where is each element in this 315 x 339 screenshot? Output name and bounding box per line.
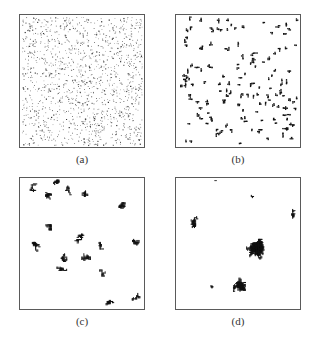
panel-d-large-fractal-cluster [175, 177, 301, 310]
panel-d-plot [176, 178, 300, 309]
panel-b-label: (b) [218, 153, 258, 165]
panel-a-label: (a) [62, 153, 102, 165]
panel-b-small-clusters [175, 14, 301, 148]
panel-a-random-particles [19, 14, 145, 148]
panel-a-plot [20, 15, 144, 147]
panel-c-label: (c) [62, 315, 102, 327]
panel-c-plot [20, 178, 144, 309]
panel-b-plot [176, 15, 300, 147]
panel-c-medium-clusters [19, 177, 145, 310]
panel-d-label: (d) [218, 315, 258, 327]
